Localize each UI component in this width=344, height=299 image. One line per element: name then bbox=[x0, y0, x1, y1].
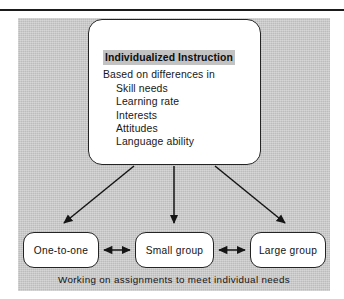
difference-factors-list: Skill needs Learning rate Interests Atti… bbox=[103, 82, 253, 149]
top-divider-rule bbox=[0, 9, 344, 11]
list-item: Attitudes bbox=[116, 122, 253, 135]
list-item: Learning rate bbox=[116, 95, 253, 108]
grouping-box-large-group: Large group bbox=[250, 232, 326, 268]
main-box-text: Individualized Instruction Based on diff… bbox=[103, 50, 253, 149]
grouping-label: Large group bbox=[259, 245, 317, 256]
grouping-box-one-to-one: One-to-one bbox=[23, 232, 99, 268]
grouping-label: Small group bbox=[146, 245, 204, 256]
list-item: Skill needs bbox=[116, 82, 253, 95]
grouping-label: One-to-one bbox=[34, 245, 89, 256]
figure-container: Individualized Instruction Based on diff… bbox=[0, 0, 344, 299]
main-box-title: Individualized Instruction bbox=[103, 50, 235, 65]
figure-caption: Working on assignments to meet individua… bbox=[18, 274, 330, 285]
list-item: Interests bbox=[116, 109, 253, 122]
main-concept-box: Individualized Instruction Based on diff… bbox=[88, 19, 261, 165]
list-item: Language ability bbox=[116, 135, 253, 148]
grouping-box-small-group: Small group bbox=[135, 232, 214, 268]
main-box-subtitle: Based on differences in bbox=[103, 68, 253, 81]
